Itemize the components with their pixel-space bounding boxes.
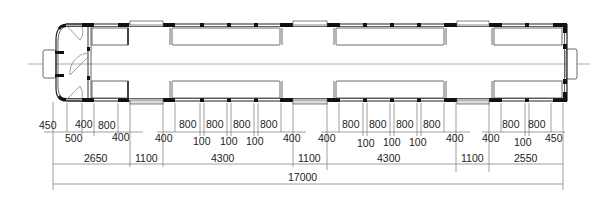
dim-label: 800 <box>369 118 387 130</box>
dimension-labels-row2: 500 400 400 100 100 100 400 400 100 100 … <box>65 131 532 149</box>
floor-plan-drawing: 450 400 800 800 800 800 800 800 800 800 … <box>0 0 614 201</box>
dim-label: 400 <box>112 131 130 143</box>
dim-label: 1100 <box>135 152 158 164</box>
dim-label: 800 <box>502 118 520 130</box>
rear-coupler-box <box>566 49 577 79</box>
dim-label: 450 <box>545 132 563 144</box>
dimension-labels-row3: 2650 1100 4300 1100 4300 1100 2550 <box>84 152 538 164</box>
dim-label: 800 <box>98 119 116 131</box>
dim-label: 400 <box>482 132 500 144</box>
dim-label: 800 <box>206 118 224 130</box>
dim-label: 400 <box>75 118 93 130</box>
vehicle-body <box>56 24 567 101</box>
dim-label: 800 <box>342 118 360 130</box>
dim-label: 800 <box>179 118 197 130</box>
dim-label: 400 <box>283 132 301 144</box>
dim-label: 1100 <box>461 152 484 164</box>
dim-label: 2550 <box>514 152 538 164</box>
front-coupler-box <box>43 50 56 78</box>
dim-label: 100 <box>193 135 211 147</box>
dim-label: 450 <box>39 119 57 131</box>
dim-label: 400 <box>318 132 336 144</box>
dim-label: 100 <box>383 136 401 148</box>
dim-label: 2650 <box>84 152 108 164</box>
dim-label: 100 <box>409 136 427 148</box>
dim-label: 4300 <box>377 152 401 164</box>
dim-label: 1100 <box>298 152 321 164</box>
dim-label: 4300 <box>211 152 235 164</box>
dim-label: 100 <box>220 135 238 147</box>
dim-label: 800 <box>528 118 546 130</box>
dim-label: 800 <box>396 118 414 130</box>
seats <box>92 28 562 98</box>
total-length-label: 17000 <box>288 171 317 183</box>
dim-label: 400 <box>155 132 173 144</box>
cab-door-swings <box>68 27 88 98</box>
dim-label: 100 <box>246 135 264 147</box>
dim-label: 800 <box>233 118 251 130</box>
dim-label: 100 <box>514 136 532 148</box>
dim-label: 400 <box>446 132 464 144</box>
dim-label: 800 <box>423 118 441 130</box>
dim-label: 100 <box>357 137 375 149</box>
dim-label: 800 <box>260 118 278 130</box>
dim-label: 500 <box>65 132 83 144</box>
structural-posts <box>55 23 567 102</box>
